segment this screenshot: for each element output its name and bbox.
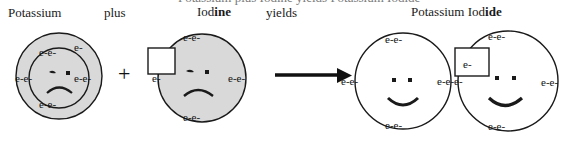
atom-potassium-reactant: e-e- e-e- e-e- e-e- e- <box>15 33 102 119</box>
potassium-electron-pair-top: e-e- <box>39 46 56 58</box>
potassium-electron-pair-left: e-e- <box>15 72 32 84</box>
transferred-electron: e- <box>463 58 472 70</box>
potassium-product-electron-pair-top: e-e- <box>385 33 402 45</box>
iodine-product-electron-pair-top: e-e- <box>488 30 505 42</box>
atom-iodine-product: e-e- e-e- e-e- <box>458 30 558 132</box>
potassium-product-smile-mouth <box>388 98 418 105</box>
atom-iodine-reactant: e-e- e-e- e-e- e- <box>148 31 246 123</box>
iodine-vacancy-box <box>148 48 175 74</box>
atoms-svg: e-e- e-e- e-e- e-e- e- e-e- e-e- e-e- e- <box>0 0 576 142</box>
potassium-electron-pair-bottom: e-e- <box>39 98 56 110</box>
potassium-valence-electron: e- <box>74 41 83 53</box>
bond-junction: e- e-e-e- <box>437 48 489 87</box>
iodine-eye-right <box>205 70 209 74</box>
reaction-diagram: Potassium plus Iodine yields Potassium I… <box>0 0 576 142</box>
potassium-product-electron-pair-bottom: e-e- <box>385 119 402 131</box>
potassium-product-electron-pair-left: e-e- <box>341 75 358 87</box>
potassium-product-eye-left <box>392 78 396 82</box>
iodine-electron-single-left: e- <box>152 72 161 84</box>
potassium-electron-pair-right: e-e- <box>74 72 91 84</box>
potassium-product-happy-face <box>388 78 418 105</box>
iodine-electron-pair-bottom: e-e- <box>183 111 200 123</box>
iodine-product-eye-right <box>512 76 516 80</box>
atom-potassium-product: e-e- e-e- e-e- <box>341 33 451 131</box>
iodine-product-electron-pair-right: e-e- <box>541 76 558 88</box>
potassium-product-eye-right <box>408 78 412 82</box>
potassium-eye-right <box>66 71 70 75</box>
iodine-product-vacancy-box <box>455 48 489 76</box>
iodine-electron-pair-right: e-e- <box>228 72 245 84</box>
junction-electron-triple: e-e-e- <box>437 75 463 87</box>
iodine-electron-pair-top: e-e- <box>183 31 200 43</box>
iodine-product-electron-pair-bottom: e-e- <box>488 120 505 132</box>
iodine-product-eye-left <box>495 76 499 80</box>
iodine-product-happy-face <box>489 76 522 106</box>
iodine-product-smile-mouth <box>489 98 522 106</box>
